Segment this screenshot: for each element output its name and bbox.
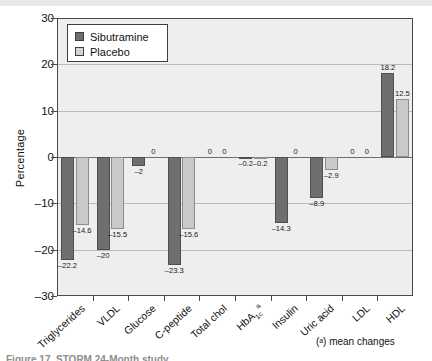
y-axis-tick-mark bbox=[51, 18, 57, 19]
bar-hdl-sibutramine bbox=[381, 73, 394, 157]
bar-hdl-placebo bbox=[396, 99, 409, 157]
x-axis-tick-mark bbox=[342, 296, 343, 301]
scan-artifact-strip bbox=[0, 0, 432, 6]
y-axis-tick-mark bbox=[51, 111, 57, 112]
y-axis-tick-label: 10 bbox=[12, 106, 54, 116]
gridline bbox=[58, 111, 412, 112]
legend-swatch-icon-placebo bbox=[75, 47, 84, 56]
y-axis-tick-label: 0 bbox=[12, 152, 54, 162]
figure-caption-clipped: Figure 17. STORM 24-Month study bbox=[6, 354, 426, 361]
bar-value-label: –22.2 bbox=[53, 261, 83, 270]
bar-value-label: –20 bbox=[88, 251, 118, 260]
bar-value-label: –2 bbox=[124, 167, 154, 176]
y-axis-tick-mark bbox=[51, 64, 57, 65]
y-axis-tick-label: –30 bbox=[12, 291, 54, 301]
x-axis-tick-mark bbox=[306, 296, 307, 301]
x-axis-tick-mark bbox=[93, 296, 94, 301]
y-axis-tick-label: 20 bbox=[12, 59, 54, 69]
bar-insulin-sibutramine bbox=[275, 157, 288, 223]
bar-uric-acid-placebo bbox=[325, 157, 338, 170]
x-axis-tick-mark bbox=[199, 296, 200, 301]
bar-value-label: –2.9 bbox=[316, 171, 346, 180]
y-axis-tick-label: 30 bbox=[12, 13, 54, 23]
legend-swatch-icon-sibutramine bbox=[75, 32, 84, 41]
y-axis-tick-mark bbox=[51, 250, 57, 251]
bar-value-label: –8.9 bbox=[302, 199, 332, 208]
bar-vldl-placebo bbox=[111, 157, 124, 229]
figure-container: Percentage 3020100–10–20–30 –22.2–14.6–2… bbox=[0, 0, 432, 361]
y-axis-tick-label: –10 bbox=[12, 198, 54, 208]
x-axis-tick-mark bbox=[271, 296, 272, 301]
bar-glucose-sibutramine bbox=[132, 157, 145, 166]
y-axis-tick-mark bbox=[51, 203, 57, 204]
bar-value-label: –23.3 bbox=[159, 266, 189, 275]
y-axis-tick-mark bbox=[51, 296, 57, 297]
x-axis-tick-mark bbox=[377, 296, 378, 301]
x-axis-tick-mark bbox=[235, 296, 236, 301]
bar-triglycerides-placebo bbox=[76, 157, 89, 225]
x-axis-tick-mark bbox=[128, 296, 129, 301]
bar-value-label: 0 bbox=[352, 147, 382, 156]
legend-item-sibutramine: Sibutramine bbox=[75, 29, 167, 44]
bar-value-label: 18.2 bbox=[373, 63, 403, 72]
bar-value-label: 0 bbox=[209, 147, 239, 156]
gridline bbox=[58, 64, 412, 65]
bar-value-label: –14.6 bbox=[67, 226, 97, 235]
y-axis-tick-mark bbox=[51, 157, 57, 158]
bar-value-label: –0.2 bbox=[245, 159, 275, 168]
bar-c-peptide-sibutramine bbox=[168, 157, 181, 265]
bar-triglycerides-sibutramine bbox=[61, 157, 74, 260]
bar-value-label: –15.6 bbox=[174, 230, 204, 239]
bar-value-label: 0 bbox=[281, 147, 311, 156]
bar-value-label: –15.5 bbox=[103, 230, 133, 239]
bar-c-peptide-placebo bbox=[182, 157, 195, 229]
bar-value-label: –14.3 bbox=[266, 224, 296, 233]
bar-value-label: 12.5 bbox=[387, 89, 417, 98]
footnote: (ᵃ) mean changes bbox=[316, 336, 395, 347]
x-axis-tick-mark bbox=[164, 296, 165, 301]
legend-label-placebo: Placebo bbox=[90, 46, 130, 58]
y-axis-tick-label: –20 bbox=[12, 245, 54, 255]
bar-value-label: 0 bbox=[138, 147, 168, 156]
legend-item-placebo: Placebo bbox=[75, 44, 167, 59]
legend: Sibutramine Placebo bbox=[67, 24, 168, 62]
legend-label-sibutramine: Sibutramine bbox=[90, 31, 149, 43]
